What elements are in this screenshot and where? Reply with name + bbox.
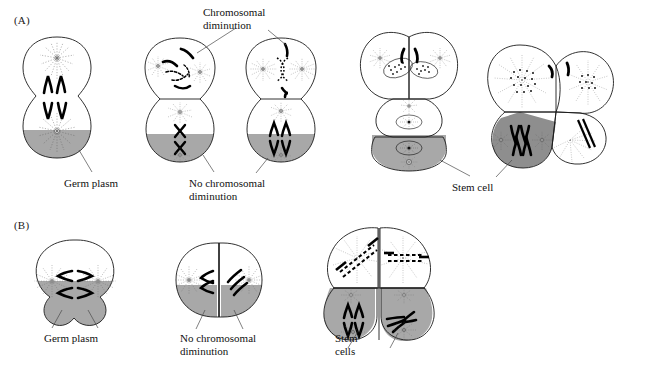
somatic-cell-upper-left-outline [360, 32, 409, 99]
diminished-chromatin-mass-right [568, 60, 608, 106]
aster-upper-right [429, 48, 451, 69]
stage-b1-horizontal-division [32, 240, 122, 331]
somatic-cell-outline [246, 38, 316, 99]
stage-b2-two-cell-both-germ-plasm [172, 243, 268, 329]
somatic-cell-upper-right-outline [409, 32, 458, 99]
aster-diminished-right [281, 58, 316, 81]
stage-a3-two-cell-post-diminution [241, 30, 321, 174]
aster-diminished-left [250, 58, 284, 81]
leader-chromosomal-diminution-2 [268, 30, 286, 45]
leader-chromosomal-diminution [197, 28, 236, 53]
stem-cells-label: Stem cells [335, 332, 385, 357]
diminution-spindle-upper-left [333, 236, 381, 284]
stage-a1-dividing-zygote [18, 37, 98, 172]
stem-cell-label: Stem cell [452, 181, 532, 194]
aster-top [40, 42, 74, 79]
somatic-cell-upper-left-outline [327, 228, 378, 288]
chromosome-group-lower [44, 103, 66, 119]
nucleus-middle [396, 115, 422, 129]
leader-no-diminution-a-right [256, 158, 268, 173]
germ-plasm-label-b: Germ plasm [44, 332, 134, 345]
stage-b3-four-cell-two-stem-cells [318, 228, 438, 348]
stage-a5-four-cell-stem-cell [487, 45, 613, 177]
chromosomal-diminution-label: Chromosomal diminution [203, 6, 315, 31]
aster-middle [400, 98, 418, 114]
fragmenting-chromatin [163, 49, 193, 88]
germ-plasm-label-a: Germ plasm [64, 177, 154, 190]
somatic-cell-upper-right-outline [556, 52, 613, 114]
stage-a4-four-cell-cluster [360, 32, 470, 176]
diminution-spindle-upper-right [381, 236, 429, 284]
no-chromosomal-diminution-label-a: No chromosomal diminution [189, 177, 299, 202]
discarded-chromatin [282, 44, 288, 97]
no-chromosomal-diminution-label-b: No chromosomal diminution [180, 332, 290, 357]
stage-a2-two-cell-diminution [140, 28, 236, 174]
aster-upper-left [369, 48, 391, 69]
diminished-chromatin-mass-left [494, 54, 550, 108]
somatic-cell-outline [145, 38, 215, 99]
leader-germ-plasm-a [79, 150, 92, 172]
germ-plasm-region [18, 130, 98, 170]
aster-lower [270, 102, 292, 123]
chromosome-group-upper [58, 271, 92, 281]
figure-canvas: (A) (B) [0, 0, 653, 369]
aster-upper-left [148, 56, 168, 77]
aster-lower [168, 102, 192, 124]
leader-no-diminution-a-left [203, 155, 214, 172]
nucleus-upper-right [409, 59, 440, 80]
leader-stem-cell-left [440, 160, 470, 176]
chromosome-group-upper [44, 76, 65, 93]
metaphase-plate-right [553, 119, 596, 162]
germ-plasm-region-left [172, 285, 222, 325]
aster-upper-right [190, 62, 210, 83]
